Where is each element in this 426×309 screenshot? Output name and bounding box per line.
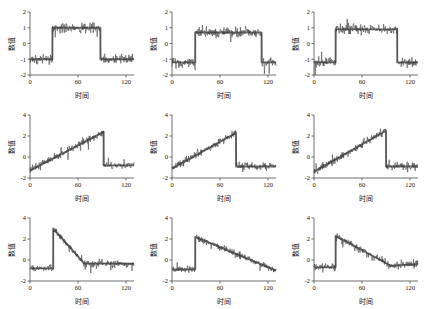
x-tick-label: 120 (263, 181, 273, 188)
trend-line (314, 29, 418, 62)
x-tick-label: 60 (359, 181, 366, 188)
plot-panel: -2-1012060120数值时间 (0, 0, 142, 103)
x-axis-label: 时间 (172, 90, 276, 100)
x-tick-label: 120 (405, 181, 415, 188)
y-tick-label: 4 (23, 111, 27, 118)
x-tick-label: 0 (170, 78, 173, 85)
y-tick-label: 0 (307, 40, 310, 47)
plot-canvas: -2-1012060120 (284, 0, 426, 103)
plot-canvas: -2-1012060120 (0, 0, 142, 103)
y-axis-label: 数值 (290, 243, 300, 257)
plot-panel: -2024060120数值时间 (284, 103, 426, 206)
y-tick-label: 4 (307, 111, 311, 118)
x-tick-label: 60 (75, 284, 82, 291)
y-tick-label: 2 (165, 8, 168, 15)
plot-panel: -2-1012060120数值时间 (284, 0, 426, 103)
y-tick-label: 2 (23, 132, 26, 139)
y-tick-label: 4 (165, 214, 169, 221)
plot-panel: -2-1012060120数值时间 (142, 0, 284, 103)
y-tick-label: 4 (23, 214, 27, 221)
y-tick-label: 2 (23, 8, 26, 15)
x-tick-label: 0 (28, 284, 31, 291)
plot-canvas: -2024060120 (142, 103, 284, 206)
y-axis-label: 数值 (148, 140, 158, 154)
y-tick-label: -2 (21, 277, 26, 284)
plot-panel: -2024060120数值时间 (0, 206, 142, 309)
y-tick-label: 1 (307, 24, 310, 31)
y-tick-label: 4 (307, 214, 311, 221)
signal-line (314, 19, 418, 75)
signal-line (314, 128, 418, 173)
x-axis-label: 时间 (314, 296, 418, 306)
y-tick-label: 2 (23, 235, 26, 242)
y-tick-label: 0 (165, 40, 168, 47)
plot-panel: -2024060120数值时间 (142, 206, 284, 309)
y-tick-label: 1 (23, 24, 26, 31)
x-tick-label: 60 (217, 284, 224, 291)
plot-panel: -2024060120数值时间 (0, 103, 142, 206)
x-tick-label: 120 (263, 78, 273, 85)
y-tick-label: -2 (21, 174, 26, 181)
y-tick-label: 0 (23, 153, 26, 160)
y-axis-label: 数值 (6, 37, 16, 51)
plot-grid: -2-1012060120数值时间-2-1012060120数值时间-2-101… (0, 0, 426, 309)
x-tick-label: 0 (312, 78, 315, 85)
plot-canvas: -2024060120 (0, 206, 142, 309)
x-axis-label: 时间 (30, 296, 134, 306)
y-tick-label: -2 (305, 71, 310, 78)
y-tick-label: 2 (165, 132, 168, 139)
x-axis-label: 时间 (172, 193, 276, 203)
y-axis-label: 数值 (148, 37, 158, 51)
y-tick-label: 2 (307, 8, 310, 15)
y-tick-label: -2 (305, 277, 310, 284)
y-tick-label: 2 (307, 235, 310, 242)
plot-panel: -2024060120数值时间 (142, 103, 284, 206)
signal-line (172, 235, 276, 273)
y-tick-label: 0 (23, 40, 26, 47)
y-tick-label: -2 (163, 71, 168, 78)
plot-canvas: -2024060120 (142, 206, 284, 309)
x-tick-label: 60 (359, 284, 366, 291)
signal-line (30, 229, 134, 273)
plot-canvas: -2024060120 (284, 206, 426, 309)
y-axis-label: 数值 (148, 243, 158, 257)
x-tick-label: 0 (28, 78, 31, 85)
y-tick-label: -1 (305, 56, 310, 63)
x-axis-label: 时间 (30, 90, 134, 100)
x-tick-label: 120 (405, 284, 415, 291)
y-tick-label: 0 (165, 153, 168, 160)
y-tick-label: 0 (23, 256, 26, 263)
plot-canvas: -2-1012060120 (142, 0, 284, 103)
x-axis-label: 时间 (30, 193, 134, 203)
x-tick-label: 0 (170, 284, 173, 291)
trend-line (172, 32, 276, 62)
x-tick-label: 120 (121, 284, 131, 291)
x-tick-label: 120 (121, 78, 131, 85)
trend-line (30, 132, 134, 171)
x-tick-label: 0 (312, 284, 315, 291)
y-tick-label: -1 (163, 56, 168, 63)
x-tick-label: 60 (75, 181, 82, 188)
y-tick-label: 2 (307, 132, 310, 139)
plot-panel: -2024060120数值时间 (284, 206, 426, 309)
x-tick-label: 120 (263, 284, 273, 291)
x-tick-label: 60 (217, 78, 224, 85)
trend-line (30, 28, 134, 60)
y-axis-label: 数值 (290, 140, 300, 154)
plot-canvas: -2024060120 (284, 103, 426, 206)
x-axis-label: 时间 (172, 296, 276, 306)
signal-line (30, 22, 134, 64)
x-tick-label: 120 (121, 181, 131, 188)
y-axis-label: 数值 (6, 243, 16, 257)
y-tick-label: -1 (21, 56, 26, 63)
x-tick-label: 0 (170, 181, 173, 188)
x-axis-label: 时间 (314, 193, 418, 203)
y-tick-label: 2 (165, 235, 168, 242)
trend-line (172, 133, 276, 169)
y-tick-label: -2 (163, 277, 168, 284)
y-tick-label: 0 (307, 256, 310, 263)
x-tick-label: 60 (359, 78, 366, 85)
y-axis-label: 数值 (290, 37, 300, 51)
y-axis-label: 数值 (6, 140, 16, 154)
y-tick-label: -2 (21, 71, 26, 78)
